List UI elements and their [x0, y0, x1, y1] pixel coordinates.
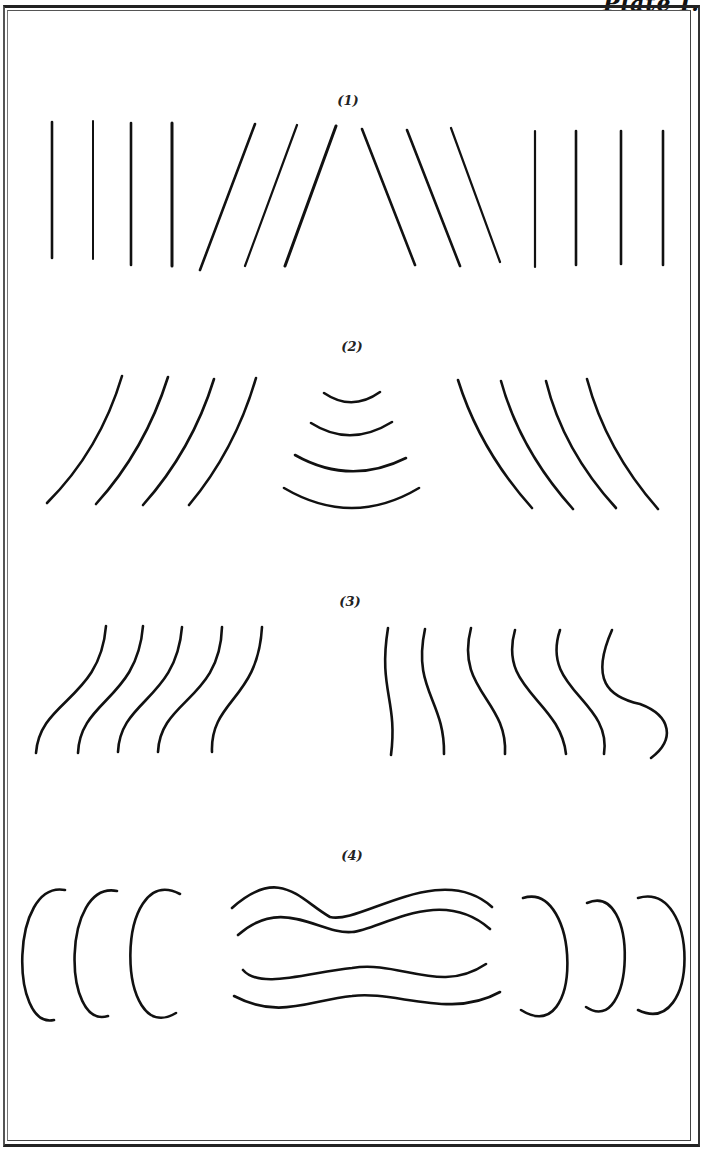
- figure-2-arcs: [47, 376, 658, 509]
- figure-1-lines: [52, 121, 663, 270]
- figure-4-shapes: [22, 887, 684, 1020]
- figure-3-waves: [36, 626, 667, 758]
